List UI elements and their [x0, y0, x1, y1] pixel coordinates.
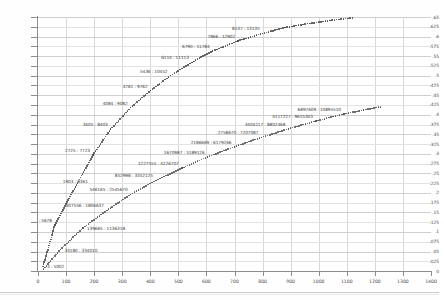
data-point [76, 233, 78, 235]
data-point [102, 212, 104, 214]
data-point [43, 261, 45, 263]
data-point [46, 251, 48, 253]
y-tick-mark [31, 115, 38, 116]
x-tick-label: 800 [248, 279, 278, 285]
data-point [68, 241, 70, 243]
data-point [257, 138, 259, 140]
y-tick-mark [31, 232, 38, 233]
data-point [51, 258, 53, 260]
data-point [256, 34, 258, 36]
data-point [145, 185, 147, 187]
data-point [130, 107, 132, 109]
x-tick-label: 200 [79, 279, 109, 285]
data-point [334, 19, 336, 21]
data-point [99, 145, 101, 147]
data-point-label: 4084 : 9082 [103, 101, 128, 106]
data-point-label: 680 : 5678 [38, 218, 52, 223]
x-tick-mark [403, 271, 404, 276]
data-point [119, 118, 121, 120]
data-point-label: 8137 : 13135 [232, 26, 260, 31]
data-point [286, 129, 288, 131]
y-tick-label: .125 [409, 220, 439, 225]
data-point-label: 2186669 : 6179266 [191, 140, 232, 145]
data-point [288, 128, 290, 130]
data-point [50, 260, 52, 262]
data-point [304, 23, 306, 25]
data-point [140, 188, 142, 190]
y-tick-label: .5 [409, 73, 439, 78]
data-point-label: 139665 : 1136318 [87, 226, 125, 231]
data-point-label: 4117227 : 9615303 [272, 114, 313, 119]
y-tick-mark [31, 193, 38, 194]
data-point [254, 35, 256, 37]
data-point [45, 257, 47, 259]
y-tick-label: .2 [409, 190, 439, 195]
data-point [74, 235, 76, 237]
x-tick-mark [94, 271, 95, 276]
data-point [95, 218, 97, 220]
data-point [252, 36, 254, 38]
data-point [155, 86, 157, 88]
data-point [46, 253, 48, 255]
data-point [345, 113, 347, 115]
data-point [99, 215, 101, 217]
data-point [325, 20, 327, 22]
data-point [89, 222, 91, 224]
y-tick-mark [31, 27, 38, 28]
data-point [75, 186, 77, 188]
data-point [174, 72, 176, 74]
y-tick-mark [31, 125, 38, 126]
x-tick-label: 0 [23, 279, 53, 285]
data-point [331, 19, 333, 21]
y-tick-mark [31, 66, 38, 67]
data-point [55, 254, 57, 256]
data-point [250, 36, 252, 38]
x-tick-label: 1400 [416, 279, 444, 285]
data-point [106, 134, 108, 136]
data-point-label: 2725 : 7723 [65, 148, 90, 153]
plot-area: 3 : 5002680 : 56781903 : 83612725 : 7723… [38, 17, 431, 271]
data-point-label: 3 : 5002 [47, 264, 64, 269]
data-point [51, 237, 53, 239]
data-point [125, 112, 127, 114]
data-point [283, 129, 285, 131]
data-point [43, 268, 45, 270]
x-tick-mark [206, 271, 207, 276]
data-point [143, 95, 145, 97]
data-point [150, 90, 152, 92]
data-point [302, 124, 304, 126]
data-point [109, 130, 111, 132]
data-point [44, 267, 46, 269]
data-point-label: 852998 : 3352125 [115, 173, 153, 178]
data-point [136, 101, 138, 103]
data-point [201, 159, 203, 161]
data-point [58, 217, 60, 219]
data-point [92, 154, 94, 156]
data-point [153, 87, 155, 89]
y-tick-label: .275 [409, 161, 439, 166]
x-tick-mark [291, 271, 292, 276]
y-tick-mark [31, 95, 38, 96]
data-point [177, 70, 179, 72]
data-point [61, 247, 63, 249]
data-point [358, 110, 360, 112]
data-point [50, 239, 52, 241]
x-tick-mark [431, 271, 432, 276]
data-point [100, 214, 102, 216]
data-point-label: 1227555 : 4226707 [138, 161, 179, 166]
y-tick-label: .3 [409, 151, 439, 156]
y-tick-label: .65 [409, 15, 439, 20]
data-point [295, 25, 297, 27]
y-tick-label: .175 [409, 200, 439, 205]
data-point [227, 148, 229, 150]
y-tick-label: .1 [409, 229, 439, 234]
data-point [322, 21, 324, 23]
data-point [138, 189, 140, 191]
y-tick-mark [31, 134, 38, 135]
y-tick-mark [31, 222, 38, 223]
data-point [170, 75, 172, 77]
data-point [119, 201, 121, 203]
data-point [104, 138, 106, 140]
x-tick-label: 1200 [360, 279, 390, 285]
data-point-label: 1903 : 8361 [63, 179, 88, 184]
